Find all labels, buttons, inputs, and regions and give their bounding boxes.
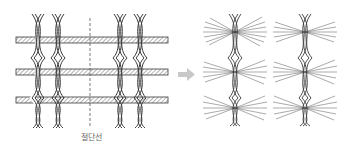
chenille-yarns: [203, 14, 337, 126]
right-arrow-icon: [178, 68, 195, 81]
chenille-diagram: [0, 0, 348, 152]
woven-fabric: [16, 14, 168, 128]
chenille-yarn-2: [273, 14, 337, 126]
cut-line-label: 절단선: [75, 131, 107, 142]
chenille-yarn-1: [203, 14, 267, 126]
